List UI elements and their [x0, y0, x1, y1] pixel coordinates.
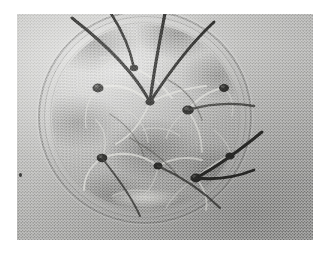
petri-dish	[38, 14, 252, 224]
seedling-vectors	[38, 14, 252, 224]
dust-speck-on-print	[19, 173, 22, 177]
seedlings	[38, 14, 252, 224]
petri-dish-photograph	[17, 14, 313, 240]
image-canvas	[0, 0, 332, 256]
root-network	[84, 57, 233, 210]
shoot-cluster	[72, 14, 262, 216]
